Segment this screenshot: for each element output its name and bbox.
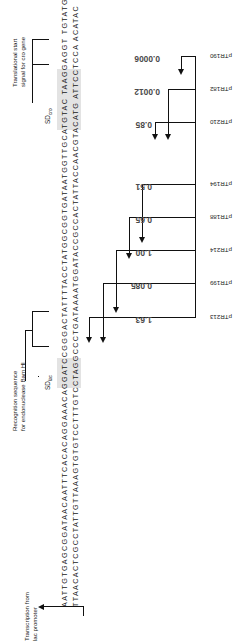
sd-lac-subscript: lac (48, 375, 53, 381)
value-ptr190: 0.0006 (134, 54, 160, 64)
value-ptr194: 0.51 (136, 182, 152, 192)
arrowhead-ptr199-icon (100, 337, 106, 343)
connector-ptr182-horizontal (168, 89, 169, 134)
bamhi-leader-line (25, 330, 26, 381)
translational-start-leader-line (32, 53, 33, 103)
connector-ptr199-horizontal (103, 283, 104, 337)
translational-start-label: Translational start signal for cro gene (11, 3, 26, 87)
sd-lac-text: SD (44, 381, 51, 390)
construct-name-ptr182: pTR182 (210, 86, 232, 93)
connector-ptr210-vertical (155, 122, 196, 123)
transcription-arrow-shaft (44, 606, 84, 607)
sequence-figure: AATTGTGAGCGGATAACAATTTCACACAGGAAACAGGATC… (0, 0, 238, 643)
sd-cro-text: SD (44, 115, 51, 124)
bamhi-spacer (38, 376, 39, 377)
construct-name-ptr199: pTR199 (210, 280, 232, 287)
arrowhead-ptr213-icon (86, 337, 92, 343)
arrowhead-ptr214-icon (113, 307, 119, 313)
sd-cro-label: SDcro (44, 108, 53, 124)
connector-ptr182-vertical (168, 89, 196, 90)
connector-ptr188-horizontal (129, 217, 130, 253)
construct-name-ptr190: pTR190 (210, 53, 232, 60)
value-ptr199: 0.085 (131, 281, 152, 291)
construct-name-ptr194: pTR194 (210, 181, 232, 188)
transcription-arrow-base (83, 606, 84, 616)
bamhi-label: Recognition sequence for endonuclease Ba… (11, 339, 26, 431)
arrowhead-ptr182-icon (165, 134, 171, 140)
arrowhead-ptr194-icon (139, 237, 145, 243)
construct-name-ptr188: pTR188 (210, 214, 232, 221)
arrowhead-ptr210-icon (152, 134, 158, 140)
arrowhead-ptr188-icon (126, 253, 132, 259)
translational-start-bracket (32, 39, 49, 65)
connector-ptr190-vertical (181, 56, 196, 57)
value-ptr210: 0.85 (136, 120, 152, 130)
arrowhead-ptr190-icon (178, 69, 184, 75)
value-ptr182: 0.0012 (134, 87, 160, 97)
transcription-arrowhead-icon (38, 604, 44, 610)
value-ptr188: 0.65 (136, 215, 152, 225)
bamhi-bracket (32, 311, 49, 347)
construct-name-ptr210: pTR210 (210, 119, 232, 126)
construct-name-ptr213: pTR213 (210, 314, 232, 321)
construct-name-ptr214: pTR214 (210, 247, 232, 254)
connector-ptr214-horizontal (116, 250, 117, 307)
connector-ptr213-horizontal (89, 317, 90, 337)
sd-cro-subscript: cro (48, 108, 53, 115)
transcription-label: Transcription from lac promoter (23, 575, 38, 641)
sd-lac-label: SDlac (44, 375, 53, 390)
connector-ptr210-horizontal (155, 122, 156, 134)
connector-ptr190-horizontal (181, 56, 182, 69)
value-ptr214: 1.00 (136, 248, 152, 258)
construct-baseline (195, 56, 196, 318)
bottom-strand-sequence: TTAACACTCGCCTATTGTTAAAGTGTGTCCTTTGTCCTAG… (71, 5, 80, 607)
connector-ptr214-vertical (116, 250, 196, 251)
value-ptr213: 1.63 (136, 315, 152, 325)
top-strand-sequence: AATTGTGAGCGGATAACAATTTCACACAGGAAACAGGATC… (60, 0, 69, 607)
